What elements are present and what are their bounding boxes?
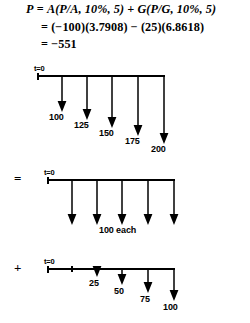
equation-line-2: = (−100)(3.7908) − (25)(6.8618) xyxy=(41,20,204,35)
time-zero-label: t=0 xyxy=(44,257,54,266)
cash-flow-diagram-uniform: t=0 100 each xyxy=(44,168,234,248)
cash-flow-amount-label: 125 xyxy=(74,120,89,130)
cash-flow-diagram-gradient-svg xyxy=(44,257,234,317)
equation-block: P = A(P/A, 10%, 5) + G(P/G, 10%, 5) = (−… xyxy=(0,0,250,56)
cash-flow-amount-label: 25 xyxy=(89,278,99,288)
equation-line-1-rhs: A(P/A, 10%, 5) + G(P/G, 10%, 5) xyxy=(47,2,216,16)
cash-flow-diagram-combined: t=0 100 125 150 175 200 xyxy=(34,64,234,150)
equation-line-1-lhs: P xyxy=(26,2,34,16)
equation-line-3: = −551 xyxy=(41,37,77,52)
cash-flow-diagram-uniform-svg xyxy=(44,168,234,238)
equation-line-1-operator: = xyxy=(37,2,44,16)
cash-flow-amount-label: 50 xyxy=(114,286,124,296)
cash-flow-amount-label: 75 xyxy=(140,294,150,304)
cash-flow-amount-label: 175 xyxy=(125,136,140,146)
equation-line-1: P = A(P/A, 10%, 5) + G(P/G, 10%, 5) xyxy=(26,2,216,17)
cash-flow-amount-label: 100 xyxy=(163,302,178,312)
cash-flow-diagram-gradient: t=0 25 50 75 100 xyxy=(44,257,234,321)
operator-plus: + xyxy=(14,261,21,274)
cash-flow-amount-label: 150 xyxy=(99,128,114,138)
time-zero-label: t=0 xyxy=(34,64,44,73)
operator-equals: = xyxy=(14,172,21,185)
cash-flow-amount-label: 100 xyxy=(49,112,64,122)
time-zero-label: t=0 xyxy=(44,168,54,177)
uniform-series-amount-label: 100 each xyxy=(99,225,136,235)
cash-flow-amount-label: 200 xyxy=(151,144,166,154)
